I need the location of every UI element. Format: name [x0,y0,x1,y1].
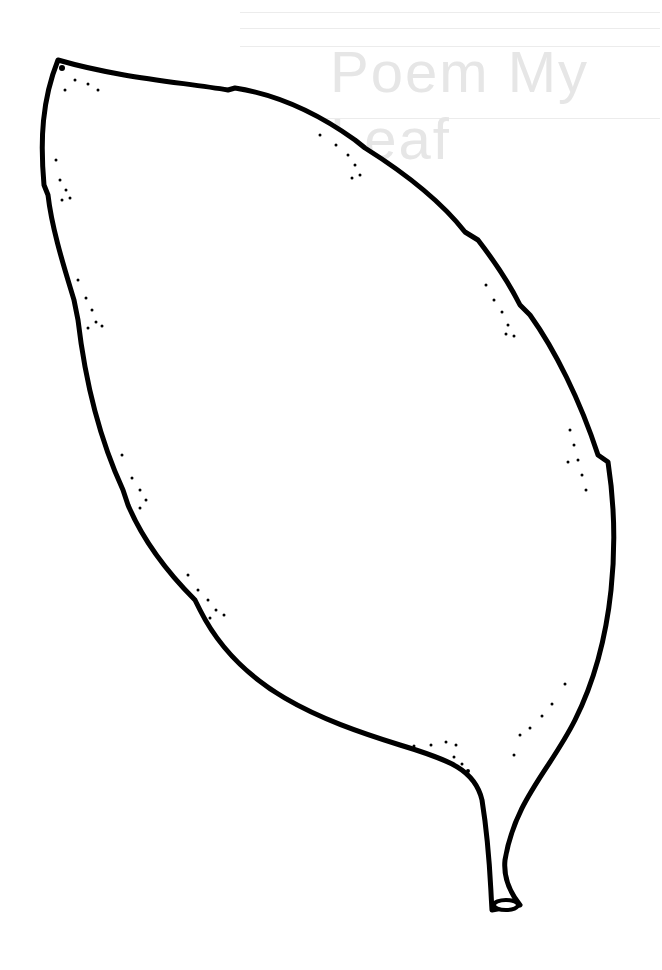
leaf-outline-icon [0,0,662,970]
leaf-canvas: Poem My Leaf [0,0,662,970]
